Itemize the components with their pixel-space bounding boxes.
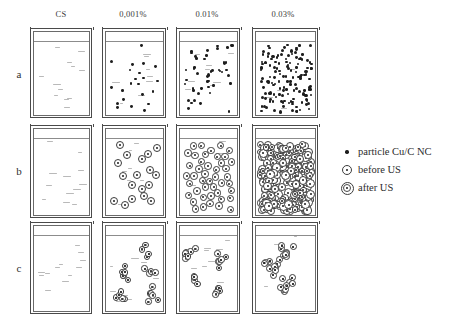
beaker-c-2 xyxy=(176,222,240,314)
solvent-fleck xyxy=(277,90,281,91)
solvent-fleck xyxy=(217,282,224,283)
particle-dot xyxy=(227,74,230,77)
liquid-level-line xyxy=(106,41,163,42)
particle-dot xyxy=(190,102,192,104)
solvent-fleck xyxy=(78,170,84,171)
particle-after-us xyxy=(122,269,129,276)
particle-before-us xyxy=(119,172,127,180)
particle-dot xyxy=(274,70,277,73)
particle-dot xyxy=(289,62,292,65)
beaker-contents xyxy=(33,225,90,312)
particle-dot xyxy=(193,99,196,102)
particle-dot xyxy=(295,106,297,108)
liquid-level-line xyxy=(180,41,237,42)
beaker-contents xyxy=(105,225,164,312)
particle-dot xyxy=(262,50,265,53)
particle-dot xyxy=(287,54,290,57)
particle-before-us xyxy=(128,181,136,189)
legend-item-particle: particle Cu/C NC xyxy=(336,143,464,161)
solvent-fleck xyxy=(76,267,82,268)
liquid-level-line xyxy=(256,41,315,42)
particle-dot xyxy=(262,53,265,56)
particle-dot xyxy=(309,44,312,47)
solvent-fleck xyxy=(146,81,153,82)
particle-before-us xyxy=(296,155,304,163)
particle-before-us xyxy=(184,149,192,157)
particle-dot xyxy=(278,93,281,96)
solvent-fleck xyxy=(59,264,63,265)
solvent-fleck xyxy=(58,89,63,90)
particle-before-us xyxy=(123,151,131,159)
solvent-fleck xyxy=(63,176,71,177)
particle-dot xyxy=(307,102,310,105)
particle-dot xyxy=(299,77,301,79)
solvent-fleck xyxy=(72,204,77,205)
particle-dot xyxy=(206,49,209,52)
particle-dot xyxy=(142,62,145,65)
beaker-c-3 xyxy=(252,222,318,314)
particle-before-us xyxy=(121,201,129,209)
particle-dot xyxy=(274,61,277,64)
particle-before-us xyxy=(200,194,208,202)
particle-dot xyxy=(272,84,274,86)
particle-before-us xyxy=(128,195,136,203)
particle-after-us xyxy=(145,298,152,305)
beaker-contents xyxy=(255,128,316,216)
particle-dot xyxy=(134,78,137,81)
particle-before-us xyxy=(282,145,288,151)
particle-dot xyxy=(272,100,275,103)
particle-dot xyxy=(229,82,231,84)
particle-dot xyxy=(262,86,265,89)
particle-dot xyxy=(156,80,158,82)
solvent-fleck xyxy=(153,278,159,279)
beaker-b-0 xyxy=(30,125,92,218)
liquid-level-line xyxy=(34,235,89,236)
particle-dot xyxy=(295,56,298,59)
particle-dot xyxy=(260,110,262,112)
solvent-fleck xyxy=(73,189,81,190)
particle-before-us xyxy=(269,144,275,150)
particle-dot xyxy=(185,79,187,81)
solvent-fleck xyxy=(79,184,87,185)
solvent-fleck xyxy=(71,66,76,67)
beaker-contents xyxy=(255,225,316,312)
beaker-contents xyxy=(33,128,90,216)
particle-dot xyxy=(110,86,113,89)
particle-dot xyxy=(273,76,276,79)
beaker-contents xyxy=(179,128,238,216)
liquid-level-line xyxy=(256,138,315,139)
particle-dot xyxy=(283,46,286,49)
solvent-fleck xyxy=(54,95,58,96)
column-header-c0001: 0,001% xyxy=(104,9,162,19)
particle-dot xyxy=(290,100,293,103)
particle-before-us xyxy=(295,144,302,151)
particle-dot xyxy=(295,71,297,73)
legend-item-before-us: before US xyxy=(336,161,464,179)
particle-dot xyxy=(306,67,309,70)
solvent-fleck xyxy=(53,84,61,85)
particle-before-us xyxy=(114,159,122,167)
solvent-fleck xyxy=(112,82,120,83)
solvent-fleck xyxy=(63,202,70,203)
particle-dot xyxy=(121,89,124,92)
particle-before-us xyxy=(204,162,212,170)
row-label-a: a xyxy=(12,68,26,80)
particle-dot xyxy=(310,67,312,69)
particle-before-us xyxy=(191,152,199,160)
particle-dot xyxy=(279,73,282,76)
solvent-fleck xyxy=(146,69,150,70)
particle-dot xyxy=(116,102,119,105)
particle-dot xyxy=(260,80,263,83)
solvent-fleck xyxy=(78,51,84,52)
solvent-fleck xyxy=(79,70,85,71)
particle-before-us xyxy=(301,200,310,209)
particle-dot xyxy=(292,98,295,101)
particle-dot xyxy=(283,100,286,103)
particle-dot xyxy=(216,47,219,50)
particle-dot xyxy=(298,90,301,93)
solvent-fleck xyxy=(75,245,80,246)
particle-dot xyxy=(294,83,297,86)
particle-before-us xyxy=(218,179,226,187)
liquid-level-line xyxy=(256,235,315,236)
solvent-fleck xyxy=(39,275,44,276)
